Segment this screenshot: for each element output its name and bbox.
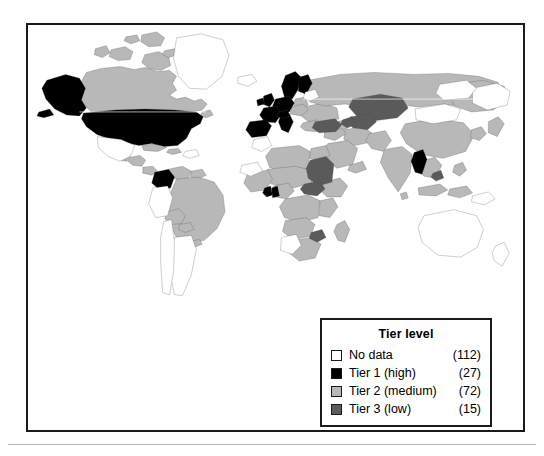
country-pakistan-afghan [366, 131, 392, 152]
country-china [400, 119, 474, 159]
island-madagascar [334, 221, 350, 243]
country-kenya-tanzania [319, 198, 338, 218]
tier-2-swatch [331, 386, 342, 397]
legend-row-tier-3[interactable]: Tier 3 (low) (15) [331, 400, 481, 418]
legend-count-tier-2: (72) [445, 382, 481, 400]
legend-label-tier-1: Tier 1 (high) [349, 364, 445, 382]
island-victoria [109, 47, 133, 61]
legend-label-tier-3: Tier 3 (low) [349, 400, 445, 418]
island-hispaniola [167, 148, 182, 154]
island-banks [94, 46, 110, 58]
map-legend: Tier level No data (112) Tier 1 (high) (… [320, 318, 492, 427]
country-norway-sweden [281, 71, 301, 99]
no-data-swatch [331, 350, 342, 361]
figure-frame: Tier level No data (112) Tier 1 (high) (… [26, 23, 525, 432]
country-newzealand [492, 242, 509, 266]
country-cuba-white-neighbors [182, 149, 199, 158]
country-japan [488, 117, 504, 137]
region-alaska-aleutians [37, 109, 54, 118]
tier-1-swatch [331, 368, 342, 379]
legend-row-tier-2[interactable]: Tier 2 (medium) (72) [331, 382, 481, 400]
legend-label-tier-2: Tier 2 (medium) [349, 382, 445, 400]
country-indonesia-b [448, 186, 473, 198]
bottom-divider [8, 444, 536, 445]
country-philippines [453, 162, 467, 176]
legend-count-tier-3: (15) [445, 400, 481, 418]
island-ellesmere [141, 32, 165, 47]
legend-row-no-data[interactable]: No data (112) [331, 346, 481, 364]
country-mongolia [415, 104, 461, 124]
country-korea-japan [471, 127, 487, 141]
legend-count-no-data: (112) [445, 346, 481, 364]
country-morocco [252, 137, 272, 152]
island-iceland [238, 74, 257, 86]
island-sri-lanka [400, 192, 408, 200]
country-greenland [174, 34, 229, 89]
legend-title: Tier level [331, 327, 481, 341]
legend-label-no-data: No data [349, 346, 445, 364]
country-india [380, 147, 412, 192]
country-uk [263, 93, 275, 107]
tier-3-swatch [331, 404, 342, 415]
legend-row-tier-1[interactable]: Tier 1 (high) (27) [331, 364, 481, 382]
country-png [472, 192, 496, 205]
legend-count-tier-1: (27) [445, 364, 481, 382]
country-indonesia-a [418, 184, 448, 196]
country-honduras-nicaragua [128, 155, 146, 166]
country-spain-portugal [246, 120, 272, 138]
country-australia [418, 210, 483, 257]
island-arctic-small-a [124, 35, 140, 44]
